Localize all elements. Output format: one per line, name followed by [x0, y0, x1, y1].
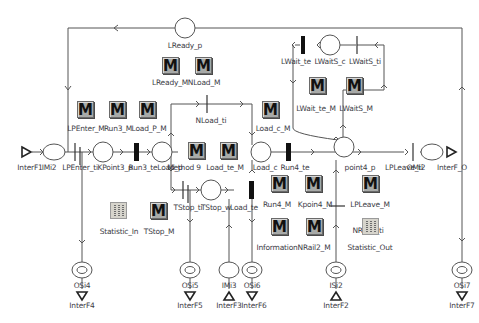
label-Run3_M: Run3_M — [104, 124, 132, 133]
label-LPLeave_ti: LPLeave_ti — [385, 163, 423, 172]
label-TStop_M: TStop_M — [144, 227, 174, 236]
label-Load_c_M: Load_c_M — [256, 124, 291, 133]
table-icon-Statistic_Out[interactable] — [362, 218, 379, 235]
label-OSi7: OSi7 — [454, 281, 471, 290]
method-icon-Method9[interactable]: M — [188, 142, 205, 159]
interface-InterF2 — [331, 292, 341, 300]
interface-InterF5 — [185, 292, 195, 300]
transition-Run3_te — [134, 143, 139, 161]
label-NRail2_M: NRail2_M — [298, 243, 331, 252]
label-Load_te_M: Load_te_M — [206, 163, 244, 172]
label-LWait_te_M: LWait_te_M — [296, 104, 336, 113]
interface-InterF3 — [224, 292, 234, 300]
method-icon-TStop_M[interactable]: M — [150, 202, 167, 219]
transition-LWait_te — [301, 36, 305, 54]
label-NLoad_M: NLoad_M — [188, 78, 220, 87]
label-Load_te: Load_te — [230, 203, 258, 212]
label-LWaitS_M: LWaitS_M — [339, 104, 372, 113]
label-TStop_w: TStop_w — [201, 203, 231, 212]
label-OSi6: OSi6 — [244, 281, 261, 290]
label-Method9: Method 9 — [167, 163, 201, 172]
place-LWaitS_c — [320, 35, 340, 55]
method-icon-Load_P_M[interactable]: M — [139, 101, 156, 118]
transition-Run4_te — [286, 143, 291, 161]
method-icon-Run3_M[interactable]: M — [109, 101, 126, 118]
place-LReady_p — [175, 18, 195, 38]
label-InterF5: InterF5 — [177, 301, 202, 310]
interface-InterF1 — [22, 147, 31, 157]
label-Statistic_Out: Statistic_Out — [347, 243, 392, 252]
label-point4_p: point4_p — [345, 163, 376, 172]
method-icon-LWait_te_M[interactable]: M — [309, 77, 326, 94]
label-Statistic_In: Statistic_In — [100, 227, 139, 236]
place-OMi2 — [421, 144, 443, 160]
label-LPEnter_ti: LPEnter_ti — [62, 163, 98, 172]
label-InterF2: InterF2 — [323, 301, 348, 310]
method-icon-Information[interactable]: M — [271, 218, 288, 235]
net-arcs — [0, 0, 479, 323]
label-Information: Information — [256, 243, 297, 252]
interface-InterF6 — [247, 292, 257, 300]
label-InterF6: InterF6 — [241, 301, 266, 310]
place-point4_p — [334, 137, 354, 157]
interface-InterF7 — [457, 292, 467, 300]
label-OSi5: OSi5 — [182, 281, 199, 290]
method-icon-Load_te_M[interactable]: M — [220, 142, 237, 159]
place-IMi2 — [43, 144, 65, 160]
label-Run4_M: Run4_M — [263, 200, 291, 209]
label-NLoad_ti: NLoad_ti — [196, 116, 227, 125]
label-InterF7: InterF7 — [449, 301, 474, 310]
label-KPoint3_p: KPoint3_p — [97, 163, 132, 172]
label-LReady_p: LReady_p — [168, 41, 202, 50]
label-LWaitS_ti: LWaitS_ti — [349, 57, 381, 66]
transition-Load_te — [249, 181, 254, 199]
label-Run4_te: Run4_te — [280, 163, 309, 172]
label-IMi3: IMi3 — [222, 281, 237, 290]
method-icon-Run4_M[interactable]: M — [271, 175, 288, 192]
method-icon-LPLeave_M[interactable]: M — [362, 175, 379, 192]
label-InterF1: InterF1 — [17, 163, 42, 172]
label-InterF_O: InterF_O — [437, 163, 467, 172]
label-Kpoin4_M: Kpoin4_M — [298, 200, 333, 209]
place-Load_p — [152, 142, 172, 162]
label-Load_c: Load_c — [253, 163, 278, 172]
method-icon-Load_c_M[interactable]: M — [262, 101, 279, 118]
label-InterF4: InterF4 — [69, 301, 94, 310]
method-icon-NLoad_M[interactable]: M — [195, 57, 212, 74]
method-icon-Kpoin4_M[interactable]: M — [305, 175, 322, 192]
table-icon-Statistic_In[interactable] — [110, 202, 127, 219]
method-icon-LWaitS_M[interactable]: M — [346, 77, 363, 94]
interface-InterF_O — [447, 147, 456, 157]
place-TStop_w — [201, 180, 221, 200]
method-icon-LPEnter_M[interactable]: M — [77, 101, 94, 118]
interface-InterF4 — [77, 292, 87, 300]
label-IMi2: IMi2 — [42, 163, 57, 172]
label-Run3_te: Run3_te — [128, 163, 157, 172]
label-Load_P_M: Load_P_M — [132, 124, 167, 133]
label-InterF3: InterF3 — [216, 301, 241, 310]
label-TStop_ti: TStop_ti — [174, 203, 203, 212]
method-icon-LReady_M[interactable]: M — [162, 57, 179, 74]
place-KPoint3_p — [93, 142, 113, 162]
label-ISi2: ISi2 — [329, 281, 342, 290]
place-Load_c — [251, 142, 271, 162]
method-icon-NRail2_M[interactable]: M — [306, 218, 323, 235]
petri-net-canvas: LReady_p LWaitS_c IMi2 KPoint3_p Load_p … — [0, 0, 479, 323]
label-LWait_te: LWait_te — [281, 57, 311, 66]
label-OSi4: OSi4 — [74, 281, 91, 290]
label-LPEnter_M: LPEnter_M — [67, 124, 104, 133]
label-LPLeave_M: LPLeave_M — [350, 200, 389, 209]
label-LWaitS_c: LWaitS_c — [314, 57, 345, 66]
label-LReady_M: LReady_M — [152, 78, 188, 87]
